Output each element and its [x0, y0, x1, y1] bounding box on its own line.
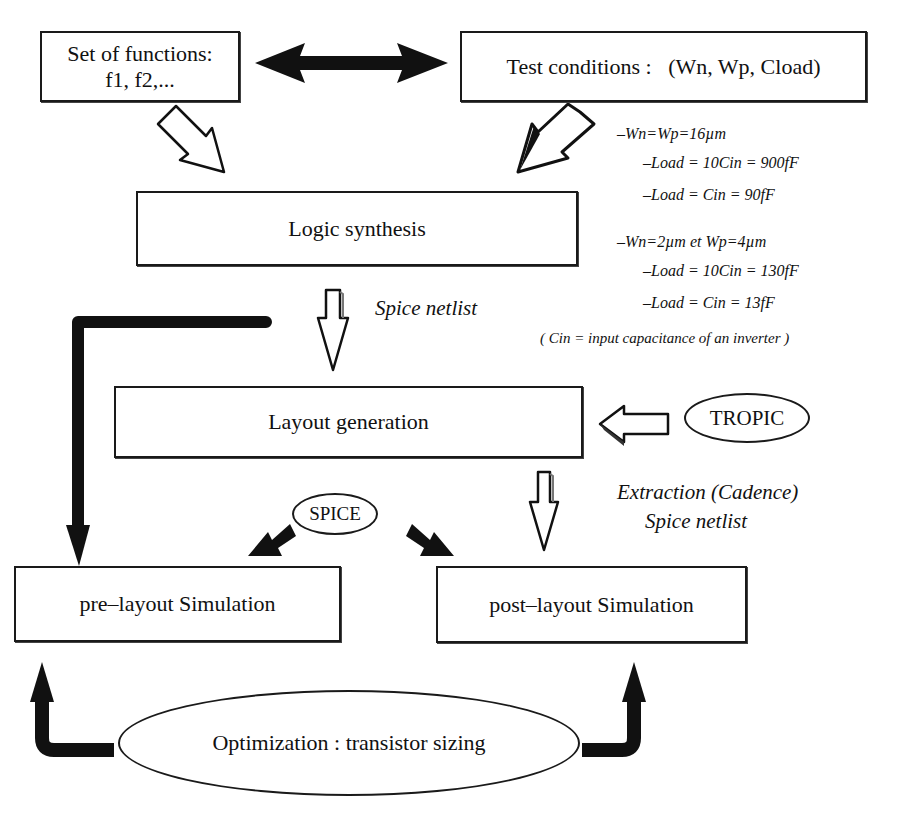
post-layout-label: post–layout Simulation	[489, 592, 694, 618]
functions-line2: f1, f2,...	[105, 67, 175, 93]
condition-load-130ff: –Load = 10Cin = 130fF	[643, 262, 799, 280]
black-arrow-down-left-icon	[248, 524, 296, 556]
layout-generation-label: Layout generation	[268, 409, 429, 435]
hollow-arrow-down-icon	[530, 472, 558, 550]
test-conditions-label: Test conditions : (Wn, Wp, Cload)	[507, 54, 821, 80]
optimization-label: Optimization : transistor sizing	[212, 730, 485, 756]
post-layout-simulation-box: post–layout Simulation	[436, 566, 747, 643]
spice-label: SPICE	[309, 503, 361, 525]
hollow-arrow-left-icon	[600, 406, 668, 446]
condition-load-13ff: –Load = Cin = 13fF	[643, 294, 775, 312]
functions-line1: Set of functions:	[67, 41, 212, 67]
condition-load-90ff: –Load = Cin = 90fF	[643, 186, 775, 204]
spice-netlist-annotation: Spice netlist	[375, 296, 477, 321]
condition-load-900ff: –Load = 10Cin = 900fF	[643, 154, 799, 172]
pre-layout-simulation-box: pre–layout Simulation	[14, 566, 341, 642]
tropic-oval: TROPIC	[684, 393, 810, 443]
condition-wn-wp-16: –Wn=Wp=16µm	[617, 125, 726, 143]
layout-generation-box: Layout generation	[114, 386, 583, 458]
extraction-annotation-line1: Extraction (Cadence)	[617, 480, 798, 505]
condition-wn2-wp4: –Wn=2µm et Wp=4µm	[617, 233, 766, 251]
black-elbow-arrow-up-right-icon	[582, 662, 646, 750]
functions-box: Set of functions: f1, f2,...	[40, 31, 240, 102]
hollow-arrow-down-right-icon	[158, 106, 224, 172]
spice-oval: SPICE	[292, 493, 378, 535]
pre-layout-label: pre–layout Simulation	[79, 591, 275, 617]
hollow-arrow-down-icon	[318, 290, 348, 370]
cin-note: ( Cin = input capacitance of an inverter…	[540, 330, 789, 347]
test-conditions-box: Test conditions : (Wn, Wp, Cload)	[460, 31, 867, 102]
dark-arrow-down-left-icon	[518, 104, 594, 172]
black-arrow-down-right-icon	[406, 524, 454, 556]
double-arrow-icon	[255, 43, 448, 83]
black-elbow-arrow-up-left-icon	[30, 662, 114, 750]
extraction-annotation-line2: Spice netlist	[645, 509, 747, 534]
logic-synthesis-label: Logic synthesis	[288, 216, 426, 242]
optimization-oval: Optimization : transistor sizing	[118, 690, 580, 796]
logic-synthesis-box: Logic synthesis	[136, 191, 578, 266]
tropic-label: TROPIC	[710, 406, 785, 431]
